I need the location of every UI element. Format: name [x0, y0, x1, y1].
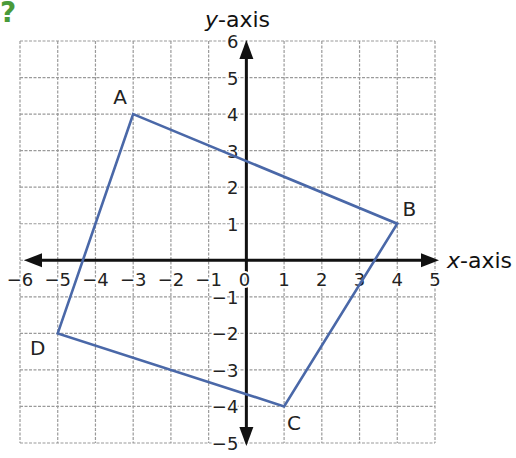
point-label-d: D [30, 336, 45, 360]
y-tick-label: −2 [212, 323, 239, 344]
x-tick-label: −3 [120, 269, 147, 290]
tick-labels: −6−5−4−3−2−1012345654321−1−2−3−4−5 [7, 31, 441, 454]
x-tick-label: −4 [82, 269, 109, 290]
x-tick-label: 4 [392, 269, 403, 290]
y-tick-label: −4 [212, 396, 239, 417]
x-tick-label: 1 [278, 269, 289, 290]
y-axis-label: y-axis [204, 7, 270, 32]
grid-lines [20, 41, 435, 443]
y-tick-label: −3 [212, 360, 239, 381]
y-tick-label: 3 [227, 141, 238, 162]
x-tick-label: −6 [7, 269, 34, 290]
axes [24, 40, 439, 446]
point-label-a: A [113, 85, 127, 109]
y-tick-label: 6 [227, 31, 238, 52]
x-tick-label: −2 [158, 269, 185, 290]
y-tick-label: 5 [227, 68, 238, 89]
x-tick-label: 0 [239, 269, 250, 290]
x-axis-label: x-axis [446, 248, 512, 273]
y-tick-label: −5 [212, 433, 239, 454]
y-axis-up-arrow-icon [239, 40, 253, 59]
x-axis-left-arrow-icon [24, 253, 42, 267]
x-tick-label: 2 [316, 269, 327, 290]
y-tick-label: 2 [227, 177, 238, 198]
y-tick-label: 1 [227, 214, 238, 235]
x-axis-right-arrow-icon [421, 253, 439, 267]
x-tick-label: −5 [44, 269, 71, 290]
point-label-c: C [287, 411, 301, 435]
point-label-b: B [402, 197, 416, 221]
coordinate-grid: −6−5−4−3−2−1012345654321−1−2−3−4−5 ABCD … [0, 0, 516, 458]
x-tick-label: 5 [429, 269, 440, 290]
y-tick-label: −1 [212, 287, 239, 308]
y-tick-label: 4 [227, 104, 238, 125]
